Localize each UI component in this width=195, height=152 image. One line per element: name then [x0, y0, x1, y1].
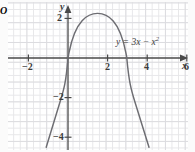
y-axis-label: y [60, 2, 64, 12]
equation-label: y = 3x − x2 [116, 36, 159, 48]
equation-equals: = [123, 37, 129, 47]
x-tick-label-2: 2 [105, 62, 110, 72]
y-tick-label-2: 2 [57, 13, 62, 23]
y-tick-label-neg2: −2 [53, 92, 64, 102]
equation-lhs: y [116, 37, 120, 47]
graph-figure: y x O −2 2 4 6 2 −2 −4 y = 3x − x2 [0, 0, 195, 152]
x-tick-label-4: 4 [144, 62, 149, 72]
origin-label: O [0, 5, 7, 16]
parabola-curve [46, 13, 149, 147]
x-tick-label-neg2: −2 [22, 62, 33, 72]
x-tick-label-6: 6 [184, 62, 189, 72]
equation-term1: 3x [131, 37, 140, 47]
equation-minus: − [143, 37, 149, 47]
graph-vector-layer [8, 2, 188, 150]
equation-term2-exponent: 2 [156, 35, 159, 42]
plot-area [8, 2, 188, 150]
y-tick-label-neg4: −4 [53, 132, 64, 142]
x-axis [8, 55, 188, 62]
